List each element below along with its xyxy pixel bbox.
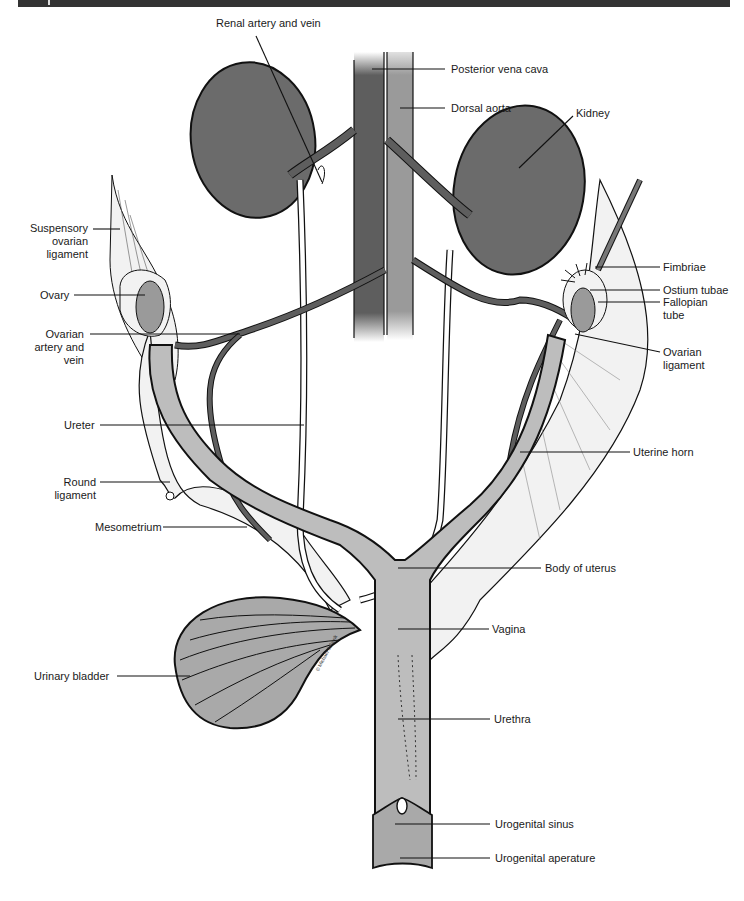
label-suspensory-ovarian-ligament: Suspensory ovarian ligament [20, 222, 88, 261]
label-renal-artery-vein: Renal artery and vein [216, 17, 321, 30]
label-urogenital-sinus: Urogenital sinus [495, 818, 574, 831]
label-ovary: Ovary [40, 289, 69, 302]
label-vagina: Vagina [492, 623, 525, 636]
right-kidney [440, 95, 598, 285]
label-urogenital-aperature: Urogenital aperature [495, 852, 595, 865]
label-posterior-vena-cava: Posterior vena cava [451, 63, 548, 76]
urinary-bladder [175, 597, 360, 728]
label-fallopian-tube: Fallopian tube [663, 296, 713, 322]
label-urethra: Urethra [494, 713, 531, 726]
label-round-ligament: Round ligament [40, 476, 96, 502]
label-body-of-uterus: Body of uterus [545, 562, 616, 575]
label-fimbriae: Fimbriae [663, 261, 706, 274]
label-ureter: Ureter [64, 419, 95, 432]
label-kidney: Kidney [576, 107, 610, 120]
label-urinary-bladder: Urinary bladder [34, 670, 109, 683]
posterior-vena-cava [354, 52, 384, 342]
label-ovarian-ligament: Ovarian ligament [663, 346, 723, 372]
label-mesometrium: Mesometrium [95, 521, 162, 534]
label-ovarian-artery-vein: Ovarian artery and vein [30, 328, 84, 367]
label-uterine-horn: Uterine horn [633, 446, 694, 459]
dorsal-aorta [387, 52, 413, 340]
label-dorsal-aorta: Dorsal aorta [451, 102, 511, 115]
